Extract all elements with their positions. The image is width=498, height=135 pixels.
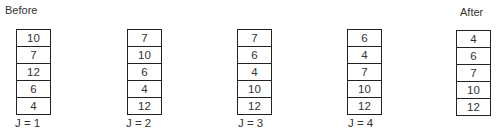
array-cell: 4: [348, 47, 381, 64]
array-cell: 4: [457, 31, 490, 48]
array-cell: 12: [457, 99, 490, 116]
array-cell: 7: [457, 65, 490, 82]
before-heading: Before: [5, 4, 37, 16]
array-cell: 12: [348, 98, 381, 115]
array-cell: 10: [17, 30, 50, 47]
array-cell: 6: [348, 30, 381, 47]
array-stack-j1: 10 7 12 6 4: [16, 29, 51, 115]
array-cell: 6: [238, 47, 271, 64]
array-stack-j2: 7 10 6 4 12: [127, 29, 162, 115]
array-cell: 10: [128, 47, 161, 64]
array-cell: 12: [238, 98, 271, 115]
array-cell: 7: [17, 47, 50, 64]
array-cell: 4: [17, 98, 50, 115]
pass-label-j3: J = 3: [238, 117, 298, 129]
array-cell: 7: [128, 30, 161, 47]
pass-label-j4: J = 4: [348, 117, 408, 129]
array-cell: 4: [238, 64, 271, 81]
array-cell: 12: [17, 64, 50, 81]
array-cell: 10: [238, 81, 271, 98]
array-cell: 10: [457, 82, 490, 99]
pass-label-j1: J = 1: [15, 117, 75, 129]
array-cell: 6: [457, 48, 490, 65]
array-stack-j3: 7 6 4 10 12: [237, 29, 272, 115]
after-heading: After: [460, 6, 483, 18]
array-stack-j4: 6 4 7 10 12: [347, 29, 382, 115]
array-stack-after: 4 6 7 10 12: [456, 30, 491, 116]
array-cell: 6: [17, 81, 50, 98]
array-cell: 4: [128, 81, 161, 98]
array-cell: 7: [348, 64, 381, 81]
array-cell: 12: [128, 98, 161, 115]
array-cell: 10: [348, 81, 381, 98]
array-cell: 6: [128, 64, 161, 81]
array-cell: 7: [238, 30, 271, 47]
pass-label-j2: J = 2: [126, 117, 186, 129]
